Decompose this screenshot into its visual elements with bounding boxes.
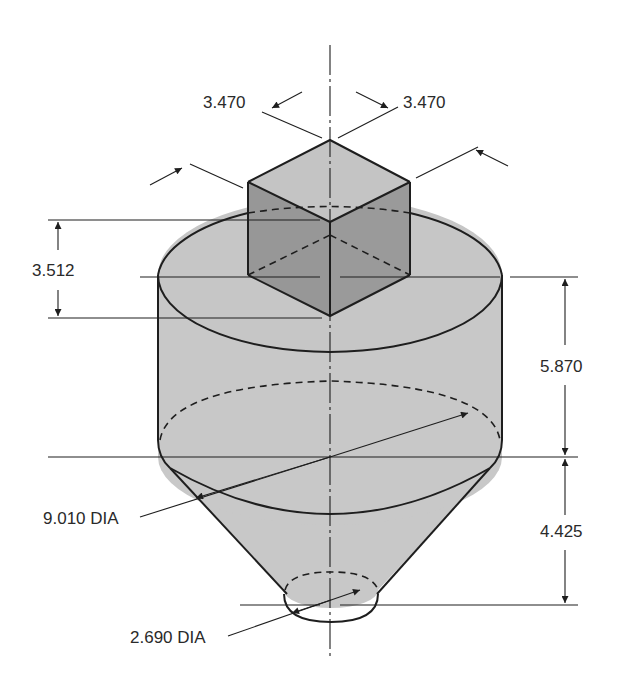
cone-height-label: 4.425 [540, 522, 583, 541]
cylinder-diameter-label: 9.010 DIA [43, 509, 119, 528]
cube-right-edge-label: 3.470 [403, 93, 446, 112]
cube-left-edge-label: 3.470 [203, 93, 246, 112]
technical-drawing: 3.470 3.470 3.512 5.870 4.425 9.010 DIA … [0, 0, 620, 683]
cube-height-label: 3.512 [32, 261, 75, 280]
cone-bottom-diameter-label: 2.690 DIA [130, 628, 206, 647]
cylinder-height-label: 5.870 [540, 357, 583, 376]
